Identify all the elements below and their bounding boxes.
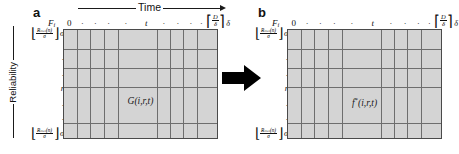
panel-a-row-labels: ⌊ Rₘᵢₙ(n) σ ⌋ σ . . r . . ⌊ bbox=[22, 28, 64, 138]
panel-a-floor-top: ⌊ Rₘᵢₙ(n) σ ⌋ bbox=[31, 28, 59, 40]
panel-b-colhead-1: . bbox=[306, 17, 308, 26]
time-axis-arrowhead bbox=[220, 5, 226, 11]
panel-b-matrix-label: f*(i,r,t) bbox=[288, 96, 441, 108]
panel-b-matrix: f*(i,r,t) bbox=[287, 29, 442, 139]
panel-letter-a: a bbox=[33, 6, 40, 19]
panel-b-colhead-4: . bbox=[351, 17, 353, 26]
panel-b-gridline-v-8 bbox=[421, 30, 422, 138]
figure-root: a Time Reliability Fi 0 . . . . t . . . … bbox=[0, 0, 459, 154]
reliability-axis-label: Reliability bbox=[8, 60, 18, 105]
panel-a-matrix: G(i,r,t) bbox=[63, 29, 218, 139]
panel-b-matrix-label-args: (i,r,t) bbox=[358, 98, 377, 108]
panel-b-ceil-denominator: δ bbox=[441, 21, 446, 28]
panel-a-colhead-3: . bbox=[108, 17, 110, 26]
panel-a-floor-bottom-denominator: σ bbox=[42, 134, 47, 139]
reliability-axis-line-bottom bbox=[13, 104, 14, 138]
panel-a-colhead-6: . bbox=[163, 17, 165, 26]
panel-b-right-delta: δ bbox=[454, 19, 458, 28]
panel-a-floor-top-fraction: Rₘᵢₙ(n) σ bbox=[36, 28, 54, 40]
panel-b-ceil-right-bracket: ⌉ bbox=[447, 16, 453, 27]
panel-a-floor-top-right-bracket: ⌋ bbox=[54, 29, 59, 39]
panel-b-colhead-9: . bbox=[428, 17, 430, 26]
panel-a-ceil-denominator: δ bbox=[213, 21, 218, 28]
panel-a-gridline-h-2 bbox=[64, 68, 217, 69]
time-axis-label: Time bbox=[136, 2, 163, 13]
panel-b-colhead-2: . bbox=[319, 17, 321, 26]
panel-b-colhead-7: . bbox=[404, 17, 406, 26]
panel-b-floor-bottom-right-bracket: ⌋ bbox=[278, 129, 283, 139]
panel-a-colhead-4: . bbox=[125, 17, 127, 26]
panel-b-d-over-delta: D δ bbox=[440, 14, 448, 28]
panel-a-d-over-delta: D δ bbox=[212, 14, 220, 28]
panel-a-right-delta: δ bbox=[226, 19, 230, 28]
panel-b-floor-top: ⌊ Rₘᵢₙ(n) σ ⌋ bbox=[255, 28, 283, 40]
panel-b-row-labels: ⌊ Rₘᵢₙ(n) σ ⌋ σ . . r . . ⌊ bbox=[246, 28, 288, 138]
panel-b-gridline-v-1 bbox=[301, 30, 302, 138]
panel-b-colhead-0: 0 bbox=[292, 19, 297, 28]
panel-a-colhead-8: . bbox=[190, 17, 192, 26]
panel-b-floor-top-fraction: Rₘᵢₙ(n) σ bbox=[260, 28, 278, 40]
panel-a-gridline-v-4 bbox=[118, 30, 119, 138]
panel-a-ceil-right-bracket: ⌉ bbox=[219, 16, 225, 27]
time-axis-line-right bbox=[163, 8, 221, 9]
panel-a-floor-bottom-fraction: Rₘᵢₙ(n) σ bbox=[36, 128, 54, 140]
panel-a-column-headers: Fi 0 . . . . t . . . . ⌈ D δ ⌉ δ bbox=[48, 16, 230, 28]
panel-letter-b: b bbox=[258, 6, 266, 19]
panel-b-gridline-h-1 bbox=[288, 49, 441, 50]
panel-b-colhead-3: . bbox=[333, 17, 335, 26]
panel-a-colhead-1: . bbox=[81, 17, 83, 26]
panel-b-gridline-v-2 bbox=[314, 30, 315, 138]
panel-a-gridline-h-4 bbox=[64, 123, 217, 124]
panel-b-floor-top-right-bracket: ⌋ bbox=[278, 29, 283, 39]
panel-b-ceil-left-bracket: ⌈ bbox=[434, 16, 440, 27]
panel-b-gridline-v-6 bbox=[394, 30, 395, 138]
panel-a-floor-top-denominator: σ bbox=[42, 34, 47, 39]
panel-b-column-headers: Fi 0 . . . . t . . . . ⌈ D δ ⌉ δ bbox=[272, 16, 458, 28]
panel-b-gridline-v-5 bbox=[381, 30, 382, 138]
panel-b-floor-bottom: ⌊ Rₘᵢₙ(n) σ ⌋ bbox=[255, 128, 283, 140]
panel-a-gridline-v-2 bbox=[90, 30, 91, 138]
panel-b-gridline-h-4 bbox=[288, 123, 441, 124]
time-axis-line-left bbox=[78, 8, 136, 9]
panel-b-gridline-h-2 bbox=[288, 68, 441, 69]
panel-b-gridline-v-3 bbox=[328, 30, 329, 138]
panel-b-gridline-v-4 bbox=[342, 30, 343, 138]
panel-a-colhead-0: 0 bbox=[67, 19, 72, 28]
panel-a-colhead-9: . bbox=[200, 17, 202, 26]
panel-a-gridline-v-6 bbox=[170, 30, 171, 138]
panel-b-colhead-6: . bbox=[390, 17, 392, 26]
reliability-axis: Reliability bbox=[6, 26, 20, 138]
panel-b-rowlabel-bottom: ⌊ Rₘᵢₙ(n) σ ⌋ σ bbox=[255, 128, 289, 140]
panel-a-gridline-v-5 bbox=[157, 30, 158, 138]
panel-a-gridline-v-1 bbox=[77, 30, 78, 138]
panel-a-gridline-h-1 bbox=[64, 49, 217, 50]
panel-b-floor-bottom-fraction: Rₘᵢₙ(n) σ bbox=[260, 128, 278, 140]
panel-a-ceil-d-delta: ⌈ D δ ⌉ bbox=[206, 14, 226, 28]
panel-a-floor-bottom-right-bracket: ⌋ bbox=[54, 129, 59, 139]
panel-a-colhead-t: t bbox=[145, 19, 148, 28]
panel-b-gridline-v-7 bbox=[407, 30, 408, 138]
panel-b-colhead-t: t bbox=[371, 19, 374, 28]
panel-a-gridline-v-8 bbox=[197, 30, 198, 138]
panel-a-rowlabel-top: ⌊ Rₘᵢₙ(n) σ ⌋ σ bbox=[31, 28, 65, 40]
panel-a-ceil-left-bracket: ⌈ bbox=[206, 16, 212, 27]
panel-b-floor-top-denominator: σ bbox=[266, 34, 271, 39]
panel-b-colhead-8: . bbox=[417, 17, 419, 26]
panel-b-gridline-h-3 bbox=[288, 87, 441, 88]
panel-a-colhead-7: . bbox=[177, 17, 179, 26]
panel-a-gridline-v-7 bbox=[183, 30, 184, 138]
panel-a-colhead-2: . bbox=[94, 17, 96, 26]
panel-a-rowlabel-bottom: ⌊ Rₘᵢₙ(n) σ ⌋ σ bbox=[31, 128, 65, 140]
time-axis-arrow: Time bbox=[78, 2, 226, 14]
panel-b-rowlabel-top: ⌊ Rₘᵢₙ(n) σ ⌋ σ bbox=[255, 28, 289, 40]
panel-a-matrix-label: G(i,r,t) bbox=[64, 96, 217, 106]
panel-a-gridline-v-3 bbox=[104, 30, 105, 138]
reliability-axis-line-top bbox=[13, 26, 14, 60]
panel-b-floor-bottom-denominator: σ bbox=[266, 134, 271, 139]
panel-b-ceil-d-delta: ⌈ D δ ⌉ bbox=[434, 14, 454, 28]
panel-a-floor-bottom: ⌊ Rₘᵢₙ(n) σ ⌋ bbox=[31, 128, 59, 140]
panel-a-gridline-h-3 bbox=[64, 87, 217, 88]
